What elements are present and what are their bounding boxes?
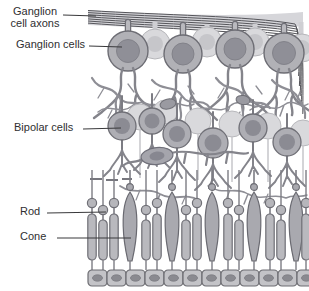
rod-cell	[152, 170, 161, 270]
pigment-epithelium-cell	[164, 270, 183, 286]
ganglion-cell	[164, 35, 202, 73]
label-cone: Cone	[20, 231, 46, 243]
photoreceptor-layer	[87, 170, 309, 270]
ganglion-cell	[264, 33, 304, 73]
ganglion-cell	[108, 31, 148, 71]
pigment-epithelium-cell	[240, 270, 259, 286]
bipolar-cell	[108, 112, 136, 140]
label-bipolar-cells: Bipolar cells	[14, 122, 73, 134]
cone-cell	[123, 170, 137, 270]
bipolar-cell	[139, 108, 165, 134]
bipolar-cell	[163, 120, 191, 148]
ganglion-cell	[216, 30, 254, 68]
pigment-epithelium-cell	[107, 270, 126, 286]
cone-cell	[165, 170, 179, 270]
pigment-epithelium-cell	[202, 270, 221, 286]
label-rod: Rod	[20, 206, 40, 218]
pigment-epithelium-cell	[297, 270, 309, 286]
pigment-epithelium-cell	[221, 270, 240, 286]
bipolar-cell	[273, 128, 301, 156]
pigment-epithelium-cell	[259, 270, 278, 286]
bipolar-cell	[239, 114, 267, 142]
cone-cell	[247, 170, 261, 270]
rod-cell	[181, 170, 190, 270]
rod-cell	[223, 170, 232, 270]
pigment-epithelium-cell	[278, 270, 297, 286]
retina-figure: Ganglion cell axons Ganglion cells Bipol…	[0, 0, 309, 291]
pigment-epithelium-cell	[183, 270, 202, 286]
pigment-epithelium-cell	[88, 270, 107, 286]
rod-cell	[109, 170, 118, 270]
label-ganglion-cell-axons: Ganglion cell axons	[4, 6, 66, 29]
rod-cell	[141, 170, 150, 270]
synaptic-terminals	[90, 179, 132, 180]
rod-cell	[234, 170, 243, 270]
pigment-epithelium	[88, 270, 309, 286]
pigment-epithelium-cell	[126, 270, 145, 286]
pigment-epithelium-cell	[145, 270, 164, 286]
leader-line-rod	[47, 212, 106, 213]
rod-cell	[87, 170, 96, 270]
rod-cell	[98, 170, 107, 270]
cone-cell	[289, 170, 303, 270]
label-ganglion-cells: Ganglion cells	[16, 39, 85, 51]
